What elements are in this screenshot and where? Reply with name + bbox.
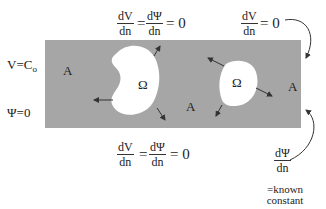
rhs-zero-top: = 0 (166, 16, 186, 31)
equals-sign: = (137, 16, 145, 31)
note-line-2: constant (250, 195, 320, 206)
denominator: dn (119, 155, 131, 168)
v-equals-c: V=C (7, 57, 32, 72)
fraction-dv-dn-top: dV dn (117, 10, 134, 37)
known-constant-note: =known constant (250, 184, 320, 206)
numerator: dΨ (149, 141, 166, 155)
fraction-dpsi-dn-right: dΨ dn (274, 147, 291, 174)
domain-rectangle (45, 40, 301, 128)
denominator: dn (276, 161, 288, 174)
region-label-a-middle: A (186, 100, 195, 113)
equals-sign: = (139, 147, 147, 162)
numerator: dΨ (274, 147, 291, 161)
hole-label-omega-right: Ω (232, 76, 242, 89)
denominator: dn (148, 24, 160, 37)
numerator: dV (117, 10, 134, 24)
numerator: dV (241, 10, 258, 24)
denominator: dn (119, 24, 131, 37)
region-label-a-left: A (63, 64, 72, 77)
fraction-dpsi-dn-bottom: dΨ dn (149, 141, 166, 168)
fraction-dpsi-dn-top: dΨ dn (146, 10, 163, 37)
region-label-a-right: A (288, 80, 297, 93)
denominator: dn (151, 155, 163, 168)
left-condition-psi: Ψ=0 (7, 106, 30, 119)
rhs-zero-bottom: = 0 (170, 147, 190, 162)
subscript-o: o (32, 64, 37, 74)
fraction-dv-dn-bottom: dV dn (117, 141, 134, 168)
numerator: dV (117, 141, 134, 155)
denominator: dn (243, 24, 255, 37)
rhs-zero-top-right: = 0 (260, 16, 280, 31)
hole-label-omega-left: Ω (138, 78, 148, 91)
left-condition-v: V=Co (7, 58, 37, 76)
diagram-canvas (0, 0, 326, 209)
fraction-dv-dn-top-right: dV dn (241, 10, 258, 37)
numerator: dΨ (146, 10, 163, 24)
